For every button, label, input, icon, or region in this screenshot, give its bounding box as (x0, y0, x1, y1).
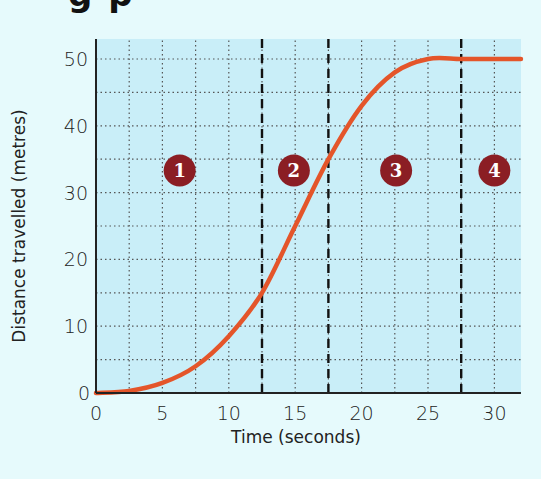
region-badge-2: 2 (278, 155, 310, 187)
x-tick-label: 30 (482, 402, 506, 424)
x-tick-label: 0 (90, 402, 102, 424)
x-axis-label: Time (seconds) (230, 427, 361, 447)
x-tick-label: 10 (217, 402, 241, 424)
y-tick-label: 40 (64, 115, 88, 137)
x-tick-label: 15 (283, 402, 307, 424)
y-tick-label: 10 (64, 315, 88, 337)
badge-number: 3 (390, 160, 403, 181)
y-tick-label: 0 (78, 382, 90, 404)
y-tick-label: 30 (64, 182, 88, 204)
badge-number: 2 (288, 160, 301, 181)
y-axis-ticks: 01020304050 (64, 48, 90, 404)
distance-time-chart: 051015202530 01020304050 Time (seconds) … (0, 0, 541, 479)
y-axis-label: Distance travelled (metres) (9, 109, 29, 342)
x-tick-label: 5 (156, 402, 168, 424)
region-badge-3: 3 (380, 155, 412, 187)
region-badge-1: 1 (164, 155, 196, 187)
y-tick-label: 50 (64, 48, 88, 70)
badge-number: 4 (488, 160, 501, 181)
x-axis-ticks: 051015202530 (90, 402, 507, 424)
x-tick-label: 20 (350, 402, 374, 424)
region-badge-4: 4 (478, 155, 510, 187)
y-tick-label: 20 (64, 248, 88, 270)
badge-number: 1 (173, 160, 186, 181)
x-tick-label: 25 (416, 402, 440, 424)
